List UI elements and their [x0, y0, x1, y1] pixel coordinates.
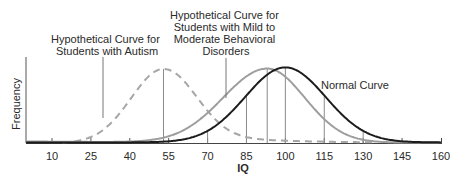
tick-label: 160: [432, 150, 450, 162]
tick-label: 55: [163, 150, 175, 162]
tick-label: 70: [201, 150, 213, 162]
y-axis-title: Frequency: [10, 78, 22, 130]
tick-label: 130: [354, 150, 372, 162]
tick-label: 115: [315, 150, 333, 162]
tick-label: 10: [46, 150, 58, 162]
tick-label: 100: [276, 150, 294, 162]
tick-label: 85: [240, 150, 252, 162]
iq-distribution-chart: Frequency Hypothetical Curve for Student…: [0, 0, 460, 183]
x-axis-title: IQ: [237, 162, 249, 174]
tick-label: 25: [85, 150, 97, 162]
x-axis-tick-labels: 102540557085100115130145160: [46, 150, 450, 162]
autism-curve-label: Hypothetical Curve for Students with Aut…: [51, 33, 163, 57]
normal-curve-label: Normal Curve: [321, 79, 389, 91]
behavioral-curve-label: Hypothetical Curve for Students with Mil…: [170, 9, 282, 57]
tick-label: 40: [124, 150, 136, 162]
tick-label: 145: [393, 150, 411, 162]
